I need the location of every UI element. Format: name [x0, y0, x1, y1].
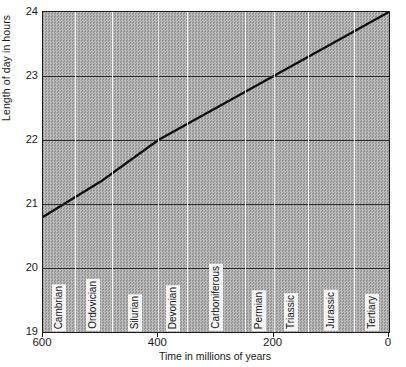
chart-figure: Length of day in hours 192021222324 Camb…: [0, 0, 406, 367]
y-tick-label-24: 24: [16, 6, 38, 17]
x-tick-mark: [157, 333, 158, 337]
plot-area: CambrianOrdovicianSilurianDevonianCarbon…: [42, 11, 390, 333]
x-tick-label-400: 400: [148, 336, 167, 348]
x-tick-mark: [273, 333, 274, 337]
period-divider: [245, 12, 246, 332]
x-tick-mark: [42, 333, 43, 337]
x-tick-label-0: 0: [385, 336, 391, 348]
period-divider: [158, 12, 159, 332]
x-tick-label-200: 200: [263, 336, 282, 348]
period-label-carboniferous: Carboniferous: [209, 264, 223, 331]
period-label-jurassic: Jurassic: [324, 290, 338, 331]
y-tick-label-23: 23: [16, 70, 38, 81]
x-axis-title: Time in millions of years: [42, 350, 388, 362]
x-tick-label-600: 600: [32, 336, 51, 348]
period-divider: [75, 12, 76, 332]
y-axis-ticks: 192021222324: [10, 0, 38, 367]
period-divider: [274, 12, 275, 332]
period-divider: [354, 12, 355, 332]
x-tick-mark: [388, 333, 389, 337]
y-tick-label-22: 22: [16, 134, 38, 145]
period-label-triassic: Triassic: [284, 293, 298, 331]
hour-gridline: [43, 140, 389, 141]
y-tick-label-20: 20: [16, 262, 38, 273]
period-label-devonian: Devonian: [166, 285, 180, 331]
period-divider: [112, 12, 113, 332]
period-label-silurian: Silurian: [128, 294, 142, 331]
period-divider: [308, 12, 309, 332]
period-label-ordovician: Ordovician: [86, 279, 100, 331]
hour-gridline: [43, 204, 389, 205]
period-label-cambrian: Cambrian: [52, 284, 66, 331]
hour-gridline: [43, 76, 389, 77]
period-label-permian: Permian: [252, 290, 266, 331]
y-tick-label-21: 21: [16, 198, 38, 209]
period-divider: [187, 12, 188, 332]
period-label-tertiary: Tertiary: [365, 294, 379, 331]
